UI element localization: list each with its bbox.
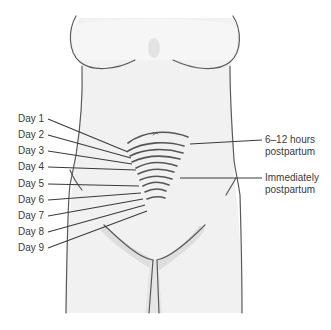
label-day-7: Day 7 [18, 210, 44, 222]
label-day-3: Day 3 [18, 145, 44, 157]
label-6-12-hours-line1: 6–12 hours [265, 134, 315, 146]
torso-diagram [0, 0, 331, 330]
label-day-4: Day 4 [18, 161, 44, 173]
label-day-6: Day 6 [18, 194, 44, 206]
label-immediately-line2: postpartum [265, 184, 319, 196]
label-day-2: Day 2 [18, 129, 44, 141]
label-day-1: Day 1 [18, 113, 44, 125]
label-6-12-hours: 6–12 hours postpartum [265, 134, 315, 158]
label-day-5: Day 5 [18, 178, 44, 190]
label-6-12-hours-line2: postpartum [265, 146, 315, 158]
label-immediately: Immediately postpartum [265, 172, 319, 196]
torso-body [65, 18, 242, 313]
label-day-8: Day 8 [18, 226, 44, 238]
label-day-9: Day 9 [18, 242, 44, 254]
label-immediately-line1: Immediately [265, 172, 319, 184]
